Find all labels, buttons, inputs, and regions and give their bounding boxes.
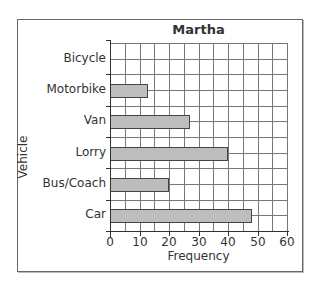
y-tick xyxy=(106,137,111,138)
gridline-horizontal xyxy=(110,106,287,107)
gridline-horizontal xyxy=(110,59,287,60)
gridline-horizontal xyxy=(110,74,287,75)
x-tick-label: 60 xyxy=(275,235,299,249)
y-tick xyxy=(106,106,111,107)
x-tick xyxy=(287,231,288,236)
x-tick xyxy=(228,231,229,236)
bar-car xyxy=(110,209,252,223)
x-axis xyxy=(106,231,289,232)
y-label: Bus/Coach xyxy=(43,176,106,190)
y-tick xyxy=(106,74,111,75)
y-label: Lorry xyxy=(75,145,106,159)
x-tick xyxy=(110,231,111,236)
x-tick-label: 10 xyxy=(128,235,152,249)
x-tick xyxy=(199,231,200,236)
chart-title: Martha xyxy=(110,22,287,37)
y-tick xyxy=(106,200,111,201)
bar-motorbike xyxy=(110,84,148,98)
gridline-horizontal xyxy=(110,43,287,44)
plot-area xyxy=(110,43,287,231)
y-tick xyxy=(106,168,111,169)
y-label: Bicycle xyxy=(63,51,106,65)
x-tick xyxy=(140,231,141,236)
y-label: Car xyxy=(85,207,106,221)
x-tick-label: 40 xyxy=(216,235,240,249)
x-tick-label: 0 xyxy=(98,235,122,249)
x-tick xyxy=(169,231,170,236)
gridline-vertical xyxy=(287,43,288,231)
bar-lorry xyxy=(110,147,228,161)
y-label: Van xyxy=(84,113,106,127)
gridline-horizontal xyxy=(110,168,287,169)
y-axis-title: Vehicle xyxy=(16,132,30,182)
bar-bus-coach xyxy=(110,178,169,192)
bar-van xyxy=(110,115,190,129)
gridline-horizontal xyxy=(110,137,287,138)
x-axis-title: Frequency xyxy=(110,249,287,263)
y-label: Motorbike xyxy=(46,82,106,96)
x-tick-label: 20 xyxy=(157,235,181,249)
x-tick xyxy=(258,231,259,236)
x-tick-label: 50 xyxy=(246,235,270,249)
x-tick-label: 30 xyxy=(187,235,211,249)
y-tick xyxy=(106,40,111,41)
y-axis xyxy=(110,40,111,238)
gridline-horizontal xyxy=(110,200,287,201)
